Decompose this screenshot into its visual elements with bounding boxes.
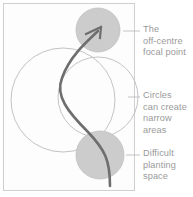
annotation-focal-point: The off-centre focal point bbox=[143, 24, 193, 59]
annotation-planting-space: Difficult planting space bbox=[143, 148, 193, 183]
diagram-canvas: The off-centre focal point Circles can c… bbox=[0, 0, 193, 197]
bottom-planting-circle bbox=[76, 131, 124, 179]
annotation-narrow-areas: Circles can create narrow areas bbox=[143, 90, 193, 136]
